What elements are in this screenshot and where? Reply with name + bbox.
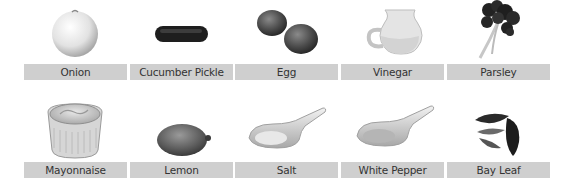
salt-spoon-icon — [235, 98, 339, 160]
ingredient-label: Onion — [24, 64, 127, 80]
bay-leaf-icon — [447, 98, 551, 160]
onion-icon — [24, 0, 128, 62]
ingredient-label: Salt — [235, 162, 338, 178]
ingredient-label: Egg — [235, 64, 338, 80]
ingredient-card-lemon: Lemon — [130, 98, 234, 184]
ingredient-card-onion: Onion — [24, 0, 128, 92]
ingredient-label: Cucumber Pickle — [130, 64, 233, 80]
lemon-icon — [130, 98, 234, 160]
ingredient-label: White Pepper — [341, 162, 444, 178]
parsley-icon — [447, 0, 551, 62]
ingredient-card-vinegar: Vinegar — [341, 0, 445, 92]
ingredient-card-bay-leaf: Bay Leaf — [447, 98, 551, 184]
ingredient-label: Bay Leaf — [447, 162, 550, 178]
egg-icon — [235, 0, 339, 62]
ingredient-card-cucumber-pickle: Cucumber Pickle — [130, 0, 234, 92]
ingredient-card-mayonnaise: Mayonnaise — [24, 98, 128, 184]
white-pepper-spoon-icon — [341, 98, 445, 160]
mayonnaise-ramekin-icon — [24, 98, 128, 160]
ingredient-card-white-pepper: White Pepper — [341, 98, 445, 184]
ingredient-card-salt: Salt — [235, 98, 339, 184]
vinegar-jug-icon — [341, 0, 445, 62]
ingredient-card-parsley: Parsley — [447, 0, 551, 92]
ingredient-card-egg: Egg — [235, 0, 339, 92]
ingredient-label: Parsley — [447, 64, 550, 80]
ingredient-label: Vinegar — [341, 64, 444, 80]
cucumber-pickle-icon — [130, 0, 234, 62]
ingredient-label: Lemon — [130, 162, 233, 178]
ingredient-label: Mayonnaise — [24, 162, 127, 178]
